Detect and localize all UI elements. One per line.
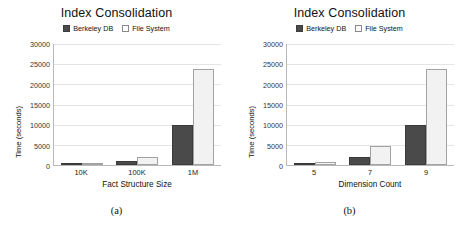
- bar-berkeley-db: [405, 125, 426, 165]
- bar-file-system: [82, 163, 103, 165]
- bar-berkeley-db: [116, 161, 137, 165]
- y-axis-ticks-b: 30000 25000 20000 15000 10000 5000 0: [247, 44, 283, 166]
- legend-swatch-icon-berkeley-db: [296, 25, 303, 32]
- y-tick-label: 10000: [30, 121, 50, 130]
- chart-panel-b: Index Consolidation Berkeley DB File Sys…: [233, 0, 466, 234]
- legend-label-berkeley-db: Berkeley DB: [73, 24, 113, 33]
- y-tick-label: 15000: [263, 101, 283, 110]
- y-axis-label-a: Time (seconds): [4, 72, 13, 84]
- x-axis-label-a: Fact Structure Size: [53, 180, 221, 189]
- panel-caption-b: (b): [233, 205, 466, 216]
- legend-entry-file-system: File System: [355, 24, 403, 33]
- y-tick-label: 0: [279, 162, 283, 171]
- chart-legend-b: Berkeley DB File System: [233, 24, 466, 33]
- y-tick-label: 0: [46, 162, 50, 171]
- y-tick-label: 10000: [263, 121, 283, 130]
- plot-area-a: [53, 44, 221, 166]
- chart-panel-a: Index Consolidation Berkeley DB File Sys…: [0, 0, 233, 234]
- legend-label-file-system: File System: [365, 24, 403, 33]
- y-tick-label: 30000: [263, 40, 283, 49]
- bar-berkeley-db: [294, 163, 315, 165]
- x-tick-label: 1M: [170, 168, 216, 177]
- legend-swatch-icon-file-system: [355, 25, 362, 32]
- y-tick-label: 30000: [30, 40, 50, 49]
- chart-legend-a: Berkeley DB File System: [0, 24, 233, 33]
- bar-file-system: [137, 157, 158, 165]
- legend-label-file-system: File System: [132, 24, 170, 33]
- chart-title-b: Index Consolidation: [233, 0, 466, 20]
- bar-group-1m: [172, 44, 214, 165]
- bar-file-system: [193, 69, 214, 165]
- panel-caption-a: (a): [0, 205, 233, 216]
- bar-group-10k: [61, 44, 103, 165]
- bar-group-100k: [116, 44, 158, 165]
- bar-berkeley-db: [61, 163, 82, 165]
- x-tick-label: 7: [347, 168, 393, 177]
- x-axis-ticks-a: 10K 100K 1M: [53, 168, 221, 177]
- y-tick-label: 5000: [34, 141, 50, 150]
- y-tick-label: 20000: [30, 80, 50, 89]
- y-tick-label: 25000: [30, 60, 50, 69]
- figure-two-panel: Index Consolidation Berkeley DB File Sys…: [0, 0, 466, 234]
- x-axis-ticks-b: 5 7 9: [286, 168, 454, 177]
- y-tick-label: 5000: [267, 141, 283, 150]
- bar-file-system: [426, 69, 447, 165]
- legend-swatch-icon-file-system: [122, 25, 129, 32]
- bar-berkeley-db: [349, 157, 370, 165]
- y-tick-label: 15000: [30, 101, 50, 110]
- chart-title-a: Index Consolidation: [0, 0, 233, 20]
- bar-groups-b: [287, 44, 454, 165]
- x-tick-label: 100K: [114, 168, 160, 177]
- y-tick-label: 20000: [263, 80, 283, 89]
- bar-berkeley-db: [172, 125, 193, 165]
- y-tick-label: 25000: [263, 60, 283, 69]
- x-axis-label-b: Dimension Count: [286, 180, 454, 189]
- x-tick-label: 5: [291, 168, 337, 177]
- bar-groups-a: [54, 44, 221, 165]
- bar-group-7: [349, 44, 391, 165]
- plot-wrap-a: Time (seconds) 30000 25000 20000 15000 1…: [0, 44, 233, 194]
- legend-entry-berkeley-db: Berkeley DB: [296, 24, 346, 33]
- y-axis-ticks-a: 30000 25000 20000 15000 10000 5000 0: [14, 44, 50, 166]
- bar-group-9: [405, 44, 447, 165]
- bar-file-system: [370, 146, 391, 165]
- legend-entry-berkeley-db: Berkeley DB: [63, 24, 113, 33]
- legend-swatch-icon-berkeley-db: [63, 25, 70, 32]
- plot-wrap-b: Time (seconds) 30000 25000 20000 15000 1…: [233, 44, 466, 194]
- bar-group-5: [294, 44, 336, 165]
- legend-entry-file-system: File System: [122, 24, 170, 33]
- x-tick-label: 10K: [58, 168, 104, 177]
- y-axis-label-b: Time (seconds): [237, 72, 246, 84]
- x-tick-label: 9: [403, 168, 449, 177]
- legend-label-berkeley-db: Berkeley DB: [306, 24, 346, 33]
- plot-area-b: [286, 44, 454, 166]
- bar-file-system: [315, 162, 336, 165]
